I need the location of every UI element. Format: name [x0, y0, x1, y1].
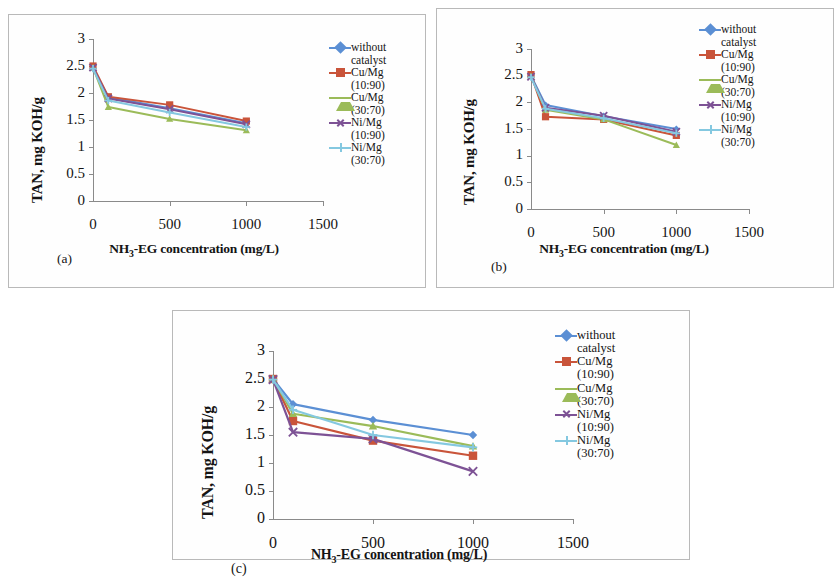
legend-item: Cu/Mg [555, 382, 615, 395]
panel-c-inner: 00.511.522.53050010001500 withoutcatalys… [173, 311, 689, 559]
legend-sublabel: (30:70) [351, 104, 386, 116]
series-layer [27, 25, 327, 245]
legend-item: Cu/Mg [555, 355, 615, 368]
legend-marker-square-icon [329, 66, 351, 79]
legend-label: Cu/Mg [351, 66, 384, 78]
y-axis-title: TAN, mg KOH/g [29, 97, 46, 203]
x-axis-title: NH3-EG concentration (mg/L) [249, 547, 549, 565]
legend-label: without [721, 23, 756, 35]
series-without-catalyst [269, 375, 477, 439]
legend-marker-diamond-icon [555, 329, 577, 342]
panel-b-inner: 00.511.522.53050010001500 withoutcatalys… [437, 9, 833, 287]
x-axis-title-rest: -EG concentration (mg/L) [336, 547, 487, 562]
chart-c: 00.511.522.53050010001500 [195, 325, 595, 553]
legend-item: Cu/Mg [699, 48, 756, 61]
x-axis-title: NH3-EG concentration (mg/L) [69, 241, 319, 259]
legend-item: Cu/Mg [329, 66, 386, 79]
legend-item: Ni/Mg [555, 434, 615, 447]
legend-sublabel: (30:70) [577, 395, 615, 408]
legend-marker-cross-icon [555, 408, 577, 421]
legend-label: without [577, 329, 615, 342]
legend-marker-plus-icon [555, 434, 577, 447]
legend-marker-diamond-icon [699, 23, 721, 36]
legend-label: Ni/Mg [577, 408, 610, 421]
legend-item: Ni/Mg [329, 116, 386, 129]
legend-item: without [329, 41, 386, 54]
legend-label: Ni/Mg [721, 98, 752, 110]
legend-sublabel: (30:70) [721, 86, 756, 98]
x-tick [749, 209, 750, 214]
legend-marker-cross-icon [699, 98, 721, 111]
legend-label: Cu/Mg [577, 355, 612, 368]
legend-label: Ni/Mg [351, 141, 382, 153]
legend-item: without [699, 23, 756, 36]
x-axis-title-main: NH [311, 547, 332, 562]
legend-label: Cu/Mg [721, 73, 754, 85]
series-layer [195, 325, 595, 553]
legend-marker-diamond-icon [329, 41, 351, 54]
panel-label-b: (b) [491, 259, 507, 275]
y-axis-title: TAN, mg KOH/g [199, 406, 217, 519]
x-axis-title-rest: -EG concentration (mg/L) [134, 241, 279, 256]
legend-item: Ni/Mg [699, 98, 756, 111]
legend-sublabel: (10:90) [351, 129, 386, 141]
chart-panel-c: 00.511.522.53050010001500 withoutcatalys… [172, 310, 690, 560]
legend-a: withoutcatalystCu/Mg(10:90)Cu/Mg(30:70)N… [329, 41, 386, 166]
legend-item: Ni/Mg [329, 141, 386, 154]
legend-label: without [351, 41, 386, 53]
x-axis-title-main: NH [109, 241, 129, 256]
legend-c: withoutcatalystCu/Mg(10:90)Cu/Mg(30:70)N… [555, 329, 615, 460]
panel-label-c: (c) [231, 561, 247, 577]
legend-sublabel: (10:90) [721, 111, 756, 123]
x-axis-title-rest: -EG concentration (mg/L) [564, 241, 709, 256]
chart-panel-a: 00.511.522.53050010001500 withoutcatalys… [8, 14, 426, 288]
chart-panel-b: 00.511.522.53050010001500 withoutcatalys… [436, 8, 834, 288]
legend-sublabel: catalyst [351, 54, 386, 66]
legend-sublabel: (10:90) [721, 61, 756, 73]
legend-item: Cu/Mg [699, 73, 756, 86]
legend-sublabel: (10:90) [577, 368, 615, 381]
legend-label: Cu/Mg [351, 91, 384, 103]
legend-item: Cu/Mg [329, 91, 386, 104]
legend-marker-triangle-icon [699, 73, 721, 86]
chart-a: 00.511.522.53050010001500 [27, 25, 327, 245]
legend-marker-triangle-icon [329, 91, 351, 104]
legend-sublabel: (30:70) [721, 136, 756, 148]
panel-a-inner: 00.511.522.53050010001500 withoutcatalys… [9, 15, 425, 287]
legend-b: withoutcatalystCu/Mg(10:90)Cu/Mg(30:70)N… [699, 23, 756, 148]
legend-marker-plus-icon [329, 141, 351, 154]
legend-label: Ni/Mg [577, 434, 610, 447]
legend-item: Ni/Mg [699, 123, 756, 136]
legend-marker-square-icon [555, 355, 577, 368]
legend-label: Ni/Mg [351, 116, 382, 128]
legend-sublabel: (30:70) [577, 447, 615, 460]
legend-marker-square-icon [699, 48, 721, 61]
series-without-catalyst [527, 72, 680, 133]
legend-sublabel: catalyst [721, 36, 756, 48]
legend-sublabel: (10:90) [351, 79, 386, 91]
legend-marker-cross-icon [329, 116, 351, 129]
legend-marker-triangle-icon [555, 382, 577, 395]
y-axis-title: TAN, mg KOH/g [461, 99, 478, 205]
legend-item: without [555, 329, 615, 342]
legend-marker-plus-icon [699, 123, 721, 136]
x-axis-title: NH3-EG concentration (mg/L) [499, 241, 749, 259]
legend-item: Ni/Mg [555, 408, 615, 421]
legend-label: Cu/Mg [577, 382, 612, 395]
legend-sublabel: (30:70) [351, 154, 386, 166]
legend-label: Cu/Mg [721, 48, 754, 60]
x-axis-title-main: NH [539, 241, 559, 256]
legend-label: Ni/Mg [721, 123, 752, 135]
